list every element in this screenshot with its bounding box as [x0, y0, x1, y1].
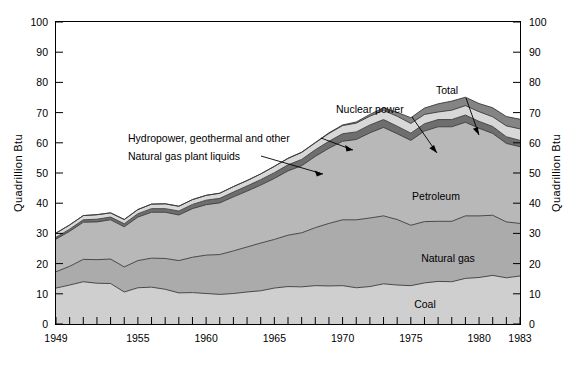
y-tick-label-left-10: 10 — [36, 288, 48, 300]
y-tick-label-right-60: 60 — [529, 137, 541, 149]
petroleum-label: Petroleum — [412, 190, 460, 202]
x-tick-label-1980: 1980 — [467, 332, 491, 344]
y-tick-label-right-40: 40 — [529, 197, 541, 209]
natural-gas-label: Natural gas — [421, 252, 475, 264]
y-tick-label-left-100: 100 — [30, 16, 48, 28]
y-tick-label-right-70: 70 — [529, 107, 541, 119]
y-tick-label-left-80: 80 — [36, 76, 48, 88]
y-axis-left-tick-labels: 0102030405060708090100 — [30, 16, 48, 330]
x-tick-label-1949: 1949 — [44, 332, 68, 344]
x-axis-tick-labels: 19491955196019651970197519801983 — [44, 332, 532, 344]
hydropower-label: Hydropower, geothermal and other — [128, 132, 290, 144]
y-tick-label-right-20: 20 — [529, 258, 541, 270]
ngpl-label: Natural gas plant liquids — [128, 150, 240, 162]
y-tick-label-right-100: 100 — [529, 16, 547, 28]
x-tick-label-1955: 1955 — [126, 332, 150, 344]
x-tick-label-1960: 1960 — [194, 332, 218, 344]
y-tick-label-right-90: 90 — [529, 46, 541, 58]
y-tick-label-right-10: 10 — [529, 288, 541, 300]
y-axis-right-tick-labels: 0102030405060708090100 — [529, 16, 547, 330]
y-tick-label-left-50: 50 — [36, 167, 48, 179]
y-tick-label-left-30: 30 — [36, 227, 48, 239]
y-tick-label-left-40: 40 — [36, 197, 48, 209]
y-tick-label-left-0: 0 — [42, 318, 48, 330]
y-tick-label-left-60: 60 — [36, 137, 48, 149]
chart-canvas: 0102030405060708090100010203040506070809… — [0, 0, 579, 367]
y-axis-right-title: Quadrillion Btu — [550, 134, 562, 212]
x-tick-label-1965: 1965 — [263, 332, 287, 344]
y-tick-label-left-70: 70 — [36, 107, 48, 119]
y-tick-label-left-90: 90 — [36, 46, 48, 58]
energy-consumption-area-chart: 0102030405060708090100010203040506070809… — [0, 0, 579, 367]
coal-label: Coal — [414, 298, 436, 310]
y-tick-label-right-50: 50 — [529, 167, 541, 179]
x-tick-label-1983: 1983 — [508, 332, 532, 344]
total-label: Total — [436, 84, 458, 96]
y-tick-label-left-20: 20 — [36, 258, 48, 270]
nuclear-label: Nuclear power — [336, 103, 404, 115]
y-tick-label-right-30: 30 — [529, 227, 541, 239]
y-axis-left-title: Quadrillion Btu — [12, 134, 24, 212]
x-tick-label-1970: 1970 — [331, 332, 355, 344]
y-tick-label-right-0: 0 — [529, 318, 535, 330]
x-tick-label-1975: 1975 — [399, 332, 423, 344]
y-tick-label-right-80: 80 — [529, 76, 541, 88]
